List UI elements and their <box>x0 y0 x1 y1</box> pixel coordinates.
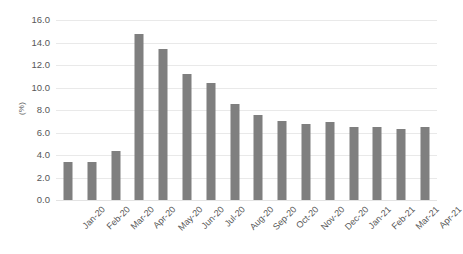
y-tick-label: 16.0 <box>32 15 51 25</box>
bar-slot <box>151 20 175 200</box>
bar-slot <box>223 20 247 200</box>
bar[interactable] <box>87 162 96 200</box>
bar-slot <box>127 20 151 200</box>
bar-slot <box>294 20 318 200</box>
x-tick-label: Mar-21 <box>415 205 442 232</box>
x-tick-label: Feb-20 <box>105 205 132 232</box>
x-tick-label: Apr-20 <box>152 205 177 230</box>
y-tick-label: 14.0 <box>32 38 51 48</box>
bar[interactable] <box>182 74 191 200</box>
bar[interactable] <box>111 151 120 201</box>
bar[interactable] <box>373 127 382 200</box>
y-tick-label: 12.0 <box>32 60 51 70</box>
bar[interactable] <box>254 115 263 201</box>
y-tick-label: 10.0 <box>32 83 51 93</box>
x-tick-label: Jan-20 <box>81 205 107 231</box>
bar[interactable] <box>325 122 334 200</box>
bar-series <box>56 20 437 200</box>
y-tick-label: 6.0 <box>37 128 50 138</box>
bar-slot <box>247 20 271 200</box>
bar[interactable] <box>421 127 430 200</box>
x-tick-label: Aug-20 <box>248 205 275 232</box>
bar-slot <box>389 20 413 200</box>
bar[interactable] <box>349 127 358 200</box>
x-tick-label: Jun-20 <box>200 205 226 231</box>
bar-slot <box>270 20 294 200</box>
bar[interactable] <box>135 34 144 201</box>
y-tick-label: 0.0 <box>37 195 50 205</box>
bar-slot <box>342 20 366 200</box>
bar-slot <box>413 20 437 200</box>
x-tick-label: Oct-20 <box>295 205 320 230</box>
y-tick-label: 4.0 <box>37 150 50 160</box>
x-tick-label: Feb-21 <box>391 205 418 232</box>
x-tick-label: Jul-20 <box>223 205 247 229</box>
x-tick-label: Mar-20 <box>129 205 156 232</box>
bar-slot <box>104 20 128 200</box>
y-tick-label: 8.0 <box>37 105 50 115</box>
bar[interactable] <box>397 129 406 200</box>
bar[interactable] <box>278 121 287 200</box>
bar[interactable] <box>206 83 215 200</box>
bar-slot <box>175 20 199 200</box>
x-tick-label: Apr-21 <box>438 205 463 230</box>
x-tick-label: Dec-20 <box>343 205 370 232</box>
x-axis-labels: Jan-20Feb-20Mar-20Apr-20May-20Jun-20Jul-… <box>56 201 437 253</box>
y-tick-label: 2.0 <box>37 173 50 183</box>
bar[interactable] <box>159 49 168 200</box>
x-tick-label: Nov-20 <box>320 205 347 232</box>
bar-slot <box>366 20 390 200</box>
y-axis-title: (%) <box>17 96 26 122</box>
x-tick-label: Jan-21 <box>367 205 393 231</box>
bar-slot <box>80 20 104 200</box>
x-tick-label: Sep-20 <box>272 205 299 232</box>
bar[interactable] <box>230 104 239 200</box>
bar-slot <box>199 20 223 200</box>
bar[interactable] <box>302 124 311 201</box>
bar-slot <box>56 20 80 200</box>
x-tick-label: May-20 <box>177 205 205 233</box>
plot-area: 16.014.012.010.08.06.04.02.00.0 <box>56 20 437 200</box>
bar[interactable] <box>63 162 72 200</box>
bar-slot <box>318 20 342 200</box>
